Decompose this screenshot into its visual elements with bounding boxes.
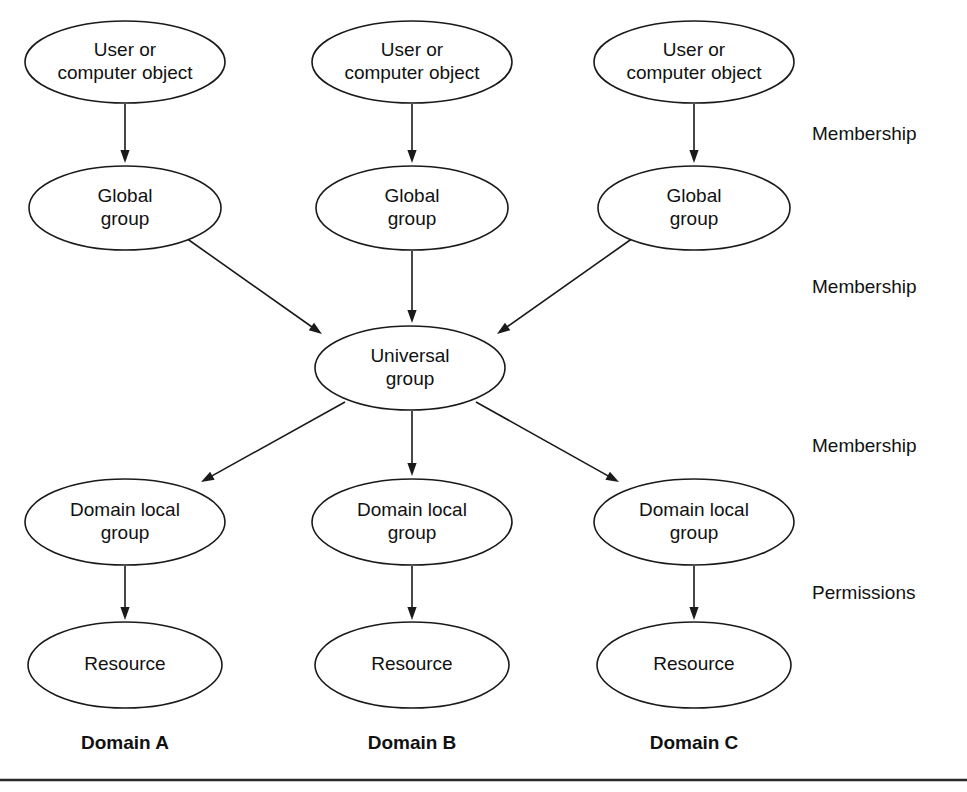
node-label: Resource bbox=[371, 653, 452, 674]
node-res-a: Resource bbox=[28, 622, 222, 708]
node-label: Resource bbox=[653, 653, 734, 674]
node-label: group bbox=[388, 208, 437, 229]
arrowhead-icon bbox=[605, 472, 619, 482]
edge-e-glob-c-univ bbox=[497, 238, 633, 334]
edge-e-univ-loc-b bbox=[407, 411, 416, 476]
stage-label-stage-4: Permissions bbox=[812, 582, 915, 603]
stage-label-stage-2: Membership bbox=[812, 276, 917, 297]
arrowhead-icon bbox=[407, 310, 416, 323]
domain-b-label: Domain B bbox=[368, 732, 457, 753]
edge-e-loc-c-res-c bbox=[689, 566, 698, 620]
node-glob-a: Globalgroup bbox=[29, 166, 221, 250]
edge-line bbox=[476, 402, 610, 477]
node-label: Global bbox=[667, 185, 722, 206]
edge-e-univ-loc-c bbox=[476, 402, 619, 482]
node-label: Domain local bbox=[639, 499, 749, 520]
arrowhead-icon bbox=[407, 607, 416, 620]
node-label: Global bbox=[98, 185, 153, 206]
domain-label-layer: Domain ADomain BDomain C bbox=[81, 732, 739, 753]
edge-e-obj-c-glob-c bbox=[689, 104, 698, 163]
edge-e-glob-b-univ bbox=[407, 251, 416, 323]
node-label: group bbox=[670, 208, 719, 229]
edge-e-loc-a-res-a bbox=[120, 566, 129, 620]
stage-label-stage-1: Membership bbox=[812, 123, 917, 144]
stage-label-stage-3: Membership bbox=[812, 435, 917, 456]
node-layer: User orcomputer objectUser orcomputer ob… bbox=[25, 21, 794, 708]
node-glob-c: Globalgroup bbox=[598, 166, 790, 250]
node-univ: Universalgroup bbox=[315, 326, 505, 410]
arrowhead-icon bbox=[689, 150, 698, 163]
edge-e-obj-a-glob-a bbox=[120, 104, 129, 163]
diagram-root: User orcomputer objectUser orcomputer ob… bbox=[0, 0, 967, 792]
node-label: Domain local bbox=[70, 499, 180, 520]
edge-line bbox=[505, 238, 633, 328]
node-obj-c: User orcomputer object bbox=[594, 21, 794, 103]
edge-e-obj-b-glob-b bbox=[407, 104, 416, 163]
node-label: computer object bbox=[57, 62, 193, 83]
node-loc-c: Domain localgroup bbox=[594, 479, 794, 565]
edge-e-loc-b-res-b bbox=[407, 566, 416, 620]
node-label: Global bbox=[385, 185, 440, 206]
edge-e-univ-loc-a bbox=[201, 402, 345, 482]
edge-line bbox=[186, 238, 314, 328]
domain-c-label: Domain C bbox=[650, 732, 739, 753]
node-label: group bbox=[101, 522, 150, 543]
stage-label-layer: MembershipMembershipMembershipPermission… bbox=[812, 123, 917, 603]
arrowhead-icon bbox=[407, 463, 416, 476]
node-label: User or bbox=[381, 39, 444, 60]
node-obj-b: User orcomputer object bbox=[312, 21, 512, 103]
node-label: group bbox=[388, 522, 437, 543]
node-label: computer object bbox=[626, 62, 762, 83]
arrowhead-icon bbox=[120, 150, 129, 163]
node-label: User or bbox=[663, 39, 726, 60]
domain-a-label: Domain A bbox=[81, 732, 169, 753]
node-label: User or bbox=[94, 39, 157, 60]
node-label: Resource bbox=[84, 653, 165, 674]
arrowhead-icon bbox=[497, 323, 510, 334]
node-res-c: Resource bbox=[597, 622, 791, 708]
node-obj-a: User orcomputer object bbox=[25, 21, 225, 103]
node-label: Universal bbox=[370, 345, 449, 366]
arrowhead-icon bbox=[201, 472, 215, 482]
edge-line bbox=[210, 402, 345, 477]
node-label: computer object bbox=[344, 62, 480, 83]
node-loc-a: Domain localgroup bbox=[25, 479, 225, 565]
arrowhead-icon bbox=[689, 607, 698, 620]
node-glob-b: Globalgroup bbox=[316, 166, 508, 250]
node-loc-b: Domain localgroup bbox=[312, 479, 512, 565]
diagram-canvas: User orcomputer objectUser orcomputer ob… bbox=[0, 0, 967, 792]
arrowhead-icon bbox=[120, 607, 129, 620]
arrowhead-icon bbox=[407, 150, 416, 163]
node-label: group bbox=[101, 208, 150, 229]
node-label: Domain local bbox=[357, 499, 467, 520]
node-label: group bbox=[670, 522, 719, 543]
arrowhead-icon bbox=[309, 323, 322, 334]
node-label: group bbox=[386, 368, 435, 389]
edge-e-glob-a-univ bbox=[186, 238, 322, 334]
node-res-b: Resource bbox=[315, 622, 509, 708]
